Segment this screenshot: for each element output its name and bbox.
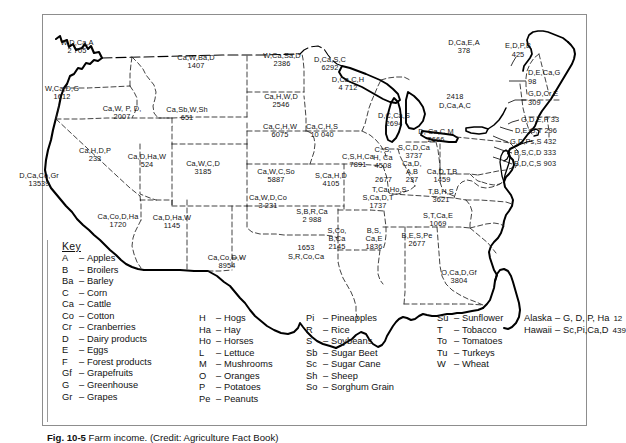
key-name: Sugar Cane (331, 359, 381, 371)
key-abbr: Ha (199, 325, 216, 337)
callout-label-ct: D,E,G,T 296 (515, 127, 557, 136)
callout-codes-ct: D,E,G,T 296 (515, 127, 557, 136)
key-abbr: A (62, 253, 79, 265)
key-dash: – (323, 382, 331, 394)
key-name: Grapes (87, 392, 118, 404)
state-value-nv: 233 (79, 155, 111, 164)
state-value-ar: 2 988 (296, 216, 328, 225)
state-label-il: C,S,H,Ca 7891 (342, 153, 374, 170)
key-codes-hawaii: Sc,Pi,Ca,D (563, 325, 608, 337)
state-value-wi: 4 712 (332, 84, 364, 93)
callout-label-nj: G,D,Ps,S 432 (510, 138, 556, 147)
key-dash: – (79, 368, 87, 380)
state-value-nc: 3621 (428, 196, 454, 205)
key-name: Sheep (331, 371, 358, 383)
border-mi-wi (381, 77, 410, 80)
state-label-pa: D, Ca,C,M 2666 (418, 128, 453, 145)
key-dash: – (79, 322, 87, 334)
key-abbr: So (306, 382, 323, 394)
callout-value-ma: 309 (528, 99, 558, 108)
state-label-mo: S,Ca,H,D 4105 (315, 172, 347, 189)
key-abbr: B (62, 265, 79, 277)
border-nv-az (140, 196, 141, 220)
key-abbr: Ba (62, 276, 79, 288)
key-name: Eggs (87, 345, 108, 357)
state-label-wy: Ca,Sb,W,Sh 651 (166, 106, 207, 123)
state-label-ca: D,Ca,Co,Gr 13539 (19, 172, 59, 189)
state-label-sc: S,T,Ca,E 1069 (423, 212, 453, 229)
state-value-or: 1612 (45, 93, 79, 102)
state-label-wi: D,Ca,C,H 4 712 (332, 76, 364, 93)
state-value-sc: 1069 (423, 220, 453, 229)
key-dash: – (323, 371, 331, 383)
key-dash: – (79, 265, 87, 277)
key-abbr: To (437, 336, 454, 348)
key-dash: – (216, 394, 224, 406)
key-item: W–Wheat (437, 359, 503, 371)
state-value-mo: 4105 (315, 180, 347, 189)
key-item: Cr–Cranberries (62, 322, 152, 334)
state-label-mt: Ca,W,Ba,D 1407 (177, 54, 214, 71)
border-pa-ny (456, 137, 510, 143)
key-item: R–Rice (306, 325, 394, 337)
key-abbr: O (199, 371, 216, 383)
key-dash: – (454, 359, 462, 371)
callout-codes-de: B,S,C,D 333 (514, 149, 556, 158)
callout-label-de: B,S,C,D 333 (514, 149, 556, 158)
state-value-ky: 2677 (375, 176, 392, 185)
key-abbr: E (62, 345, 79, 357)
state-value-pa: 2666 (418, 136, 453, 145)
key-item: A–Apples (62, 253, 152, 265)
key-item: Pi–Pineapples (306, 313, 394, 325)
key-item: To–Tomatoes (437, 336, 503, 348)
state-label-ny: 2418 D,Ca,A,C (439, 93, 471, 110)
callout-label-nh: D,E,Ca,G 98 (528, 69, 560, 86)
key-abbr: Su (437, 313, 454, 325)
key-abbr: Sh (306, 371, 323, 383)
callout-codes-nj: G,D,Ps,S 432 (510, 138, 556, 147)
state-label-nd: W,Ca,Sa,D 2386 (263, 52, 300, 69)
state-label-ar: S,B,R,Ca 2 988 (296, 208, 328, 225)
state-value-mt: 1407 (177, 62, 214, 71)
state-label-in: C, S,H, Ca 4508 (373, 146, 392, 171)
state-label-mi: D,C,Ca,S 2694 (378, 112, 410, 129)
state-label-vt: E,D,P,B 425 (505, 42, 531, 59)
key-dash: – (454, 325, 462, 337)
state-value-vt: 425 (505, 51, 531, 60)
state-label-id: Ca,W, P, D, 2007 (103, 105, 142, 122)
state-value-ok: 3 231 (249, 202, 287, 211)
key-column-1: A–Apples B–Broilers Ba–Barley C–Corn Ca–… (62, 253, 152, 403)
key-item: D–Dairy products (62, 334, 152, 346)
state-value-ks: 5887 (257, 176, 294, 185)
state-value-il: 7891 (342, 161, 374, 170)
key-item: Co–Cotton (62, 311, 152, 323)
key-name: Lettuce (224, 348, 255, 360)
state-label-co: Ca,W,C,D 3185 (186, 160, 220, 177)
key-value-hawaii: 439 (609, 325, 626, 337)
state-label-nv: Ca,H,D,P 233 (79, 147, 111, 164)
key-dash: – (79, 276, 87, 288)
state-label-ks: Ca,W,C,So 5887 (257, 168, 294, 185)
key-name: Dairy products (87, 334, 147, 346)
key-item: G–Greenhouse (62, 380, 152, 392)
key-item: S–Soybeans (306, 336, 394, 348)
key-name: Cattle (87, 299, 111, 311)
key-item-alaska: Alaska – G, D, P, Ha 12 (524, 313, 626, 325)
key-name: Hogs (224, 313, 246, 325)
state-value-ky-wrap: 2677 (375, 176, 392, 185)
key-item: H–Hogs (199, 313, 273, 325)
key-name: Pineapples (331, 313, 377, 325)
key-dash: – (323, 336, 331, 348)
state-label-ut: Ca,D,Ha,W 524 (128, 153, 166, 170)
key-dash: – (79, 380, 87, 392)
key-abbr: R (306, 325, 323, 337)
key-dash: – (79, 311, 87, 323)
key-dash: – (79, 299, 87, 311)
key-name: Peanuts (224, 394, 258, 406)
key-legend: Key A–Apples B–Broilers Ba–Barley C–Corn… (47, 240, 583, 422)
key-dash: – (216, 371, 224, 383)
key-item: Sb–Sugar Beet (306, 348, 394, 360)
key-dash: – (552, 325, 563, 337)
border-va-wv (454, 180, 503, 198)
key-column-5: Alaska – G, D, P, Ha 12 Hawaii – Sc,Pi,C… (524, 313, 626, 336)
